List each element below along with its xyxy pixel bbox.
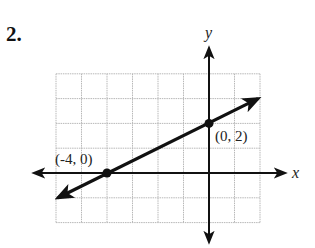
y-axis-label: y <box>203 24 213 42</box>
coordinate-graph: x y (-4, 0) (0, 2) <box>0 0 315 248</box>
x-axis-label: x <box>291 164 299 181</box>
point-label-x-intercept: (-4, 0) <box>55 151 93 168</box>
point-y-intercept <box>205 119 214 128</box>
point-x-intercept <box>103 169 112 178</box>
point-label-y-intercept: (0, 2) <box>215 128 248 145</box>
